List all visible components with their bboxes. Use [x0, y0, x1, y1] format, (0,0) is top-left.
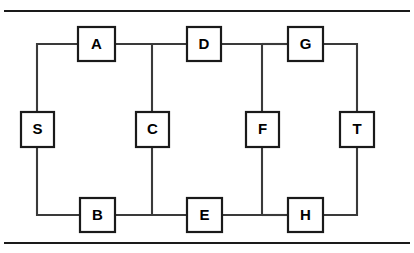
node-F[interactable]: F — [246, 112, 279, 147]
node-C-label: C — [147, 120, 158, 137]
edge-H-T — [323, 147, 357, 215]
edge-layer — [37, 44, 357, 215]
node-S-label: S — [32, 120, 42, 137]
node-G[interactable]: G — [288, 27, 323, 61]
node-S[interactable]: S — [21, 112, 54, 147]
node-G-label: G — [300, 35, 312, 52]
graph-canvas: S A B C D E — [0, 0, 414, 253]
node-A[interactable]: A — [78, 27, 115, 61]
node-D[interactable]: D — [187, 27, 221, 61]
node-layer: S A B C D E — [21, 27, 374, 232]
node-B[interactable]: B — [80, 198, 115, 232]
node-C[interactable]: C — [136, 112, 169, 147]
node-T-label: T — [352, 120, 361, 137]
node-A-label: A — [91, 35, 102, 52]
diagram-figure: S A B C D E — [0, 0, 414, 253]
edge-G-T — [323, 44, 357, 112]
edge-S-A — [37, 44, 78, 112]
node-T[interactable]: T — [340, 112, 374, 147]
node-H[interactable]: H — [288, 198, 323, 232]
node-E-label: E — [199, 206, 209, 223]
node-H-label: H — [300, 206, 311, 223]
node-F-label: F — [258, 120, 267, 137]
edge-S-B — [37, 147, 80, 215]
node-D-label: D — [199, 35, 210, 52]
node-E[interactable]: E — [187, 198, 222, 232]
node-B-label: B — [92, 206, 103, 223]
